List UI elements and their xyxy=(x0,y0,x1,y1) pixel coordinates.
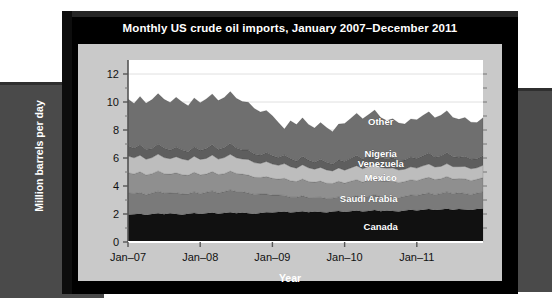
series-label-venezuela: Venezuela xyxy=(358,158,405,169)
svg-text:Jan–08: Jan–08 xyxy=(182,251,218,263)
svg-text:6: 6 xyxy=(113,152,119,164)
svg-text:12: 12 xyxy=(107,68,119,80)
series-label-mexico: Mexico xyxy=(365,172,397,183)
stacked-area-chart: 024681012Jan–07Jan–08Jan–09Jan–10Jan–11O… xyxy=(0,0,552,308)
svg-text:10: 10 xyxy=(107,96,119,108)
series-label-saudi-arabia: Saudi Arabia xyxy=(340,193,398,204)
svg-text:2: 2 xyxy=(113,208,119,220)
svg-text:8: 8 xyxy=(113,124,119,136)
svg-text:0: 0 xyxy=(113,236,119,248)
svg-text:Jan–11: Jan–11 xyxy=(399,251,434,263)
figure-caption xyxy=(66,300,536,308)
series-label-other: Other xyxy=(368,116,394,127)
svg-text:Jan–10: Jan–10 xyxy=(327,251,363,263)
series-label-nigeria: Nigeria xyxy=(365,148,398,159)
svg-text:4: 4 xyxy=(113,180,119,192)
svg-text:Jan–09: Jan–09 xyxy=(254,251,290,263)
series-label-canada: Canada xyxy=(364,221,399,232)
svg-text:Jan–07: Jan–07 xyxy=(110,251,146,263)
